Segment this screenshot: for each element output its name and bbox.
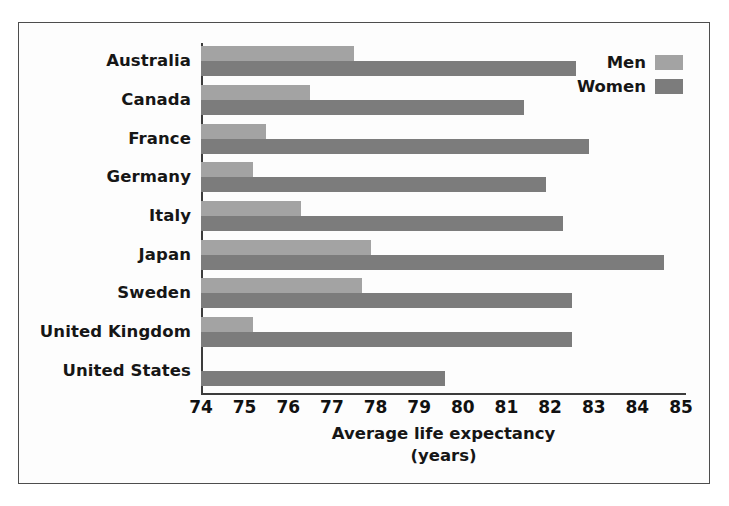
y-axis-tick-label: Canada bbox=[121, 90, 191, 109]
y-axis-tick-label: Italy bbox=[149, 206, 191, 225]
bar-men bbox=[201, 85, 310, 100]
bar-men bbox=[201, 278, 362, 293]
x-axis-tick-label: 76 bbox=[276, 397, 300, 417]
bar-women bbox=[201, 139, 589, 154]
bar-men bbox=[201, 317, 253, 332]
legend-swatch-men bbox=[655, 55, 683, 70]
x-axis-label-line1: Average life expectancy bbox=[332, 424, 556, 443]
bar-men bbox=[201, 240, 371, 255]
bar-men bbox=[201, 46, 354, 61]
bar-men bbox=[201, 162, 253, 177]
y-axis-tick-label: United States bbox=[62, 361, 191, 380]
x-axis-line bbox=[201, 393, 686, 395]
bar-men bbox=[201, 124, 266, 139]
y-axis-tick-label: Sweden bbox=[117, 283, 191, 302]
bar-women bbox=[201, 177, 546, 192]
chart-category-row: Germany bbox=[201, 159, 681, 198]
legend-item-women[interactable]: Women bbox=[577, 77, 683, 96]
x-axis-tick-label: 80 bbox=[451, 397, 475, 417]
y-axis-tick-label: France bbox=[128, 129, 191, 148]
chart-category-row: United Kingdom bbox=[201, 314, 681, 353]
y-axis-tick-label: Japan bbox=[139, 245, 191, 264]
y-axis-tick-label: United Kingdom bbox=[40, 322, 191, 341]
x-axis-tick-label: 79 bbox=[407, 397, 431, 417]
bar-women bbox=[201, 61, 576, 76]
bar-women bbox=[201, 100, 524, 115]
chart-legend: Men Women bbox=[577, 53, 683, 96]
bar-men bbox=[201, 201, 301, 216]
x-axis-tick-label: 75 bbox=[233, 397, 257, 417]
bar-women bbox=[201, 371, 445, 386]
x-axis-tick-label: 84 bbox=[626, 397, 650, 417]
x-axis-tick-label: 78 bbox=[364, 397, 388, 417]
chart-category-row: France bbox=[201, 120, 681, 159]
chart-category-row: Sweden bbox=[201, 275, 681, 314]
legend-label-men: Men bbox=[607, 53, 646, 72]
x-axis-tick-label: 74 bbox=[189, 397, 213, 417]
bar-women bbox=[201, 332, 572, 347]
x-axis-label: Average life expectancy (years) bbox=[201, 423, 686, 468]
x-axis-tick-label: 77 bbox=[320, 397, 344, 417]
chart-category-row: United States bbox=[201, 352, 681, 391]
chart-figure: AustraliaCanadaFranceGermanyItalyJapanSw… bbox=[18, 22, 710, 484]
x-axis-tick-label: 81 bbox=[495, 397, 519, 417]
x-axis-tick-label: 82 bbox=[538, 397, 562, 417]
x-axis-tick-label: 83 bbox=[582, 397, 606, 417]
y-axis-tick-label: Australia bbox=[106, 51, 191, 70]
bar-women bbox=[201, 255, 664, 270]
y-axis-tick-label: Germany bbox=[107, 167, 191, 186]
legend-swatch-women bbox=[655, 79, 683, 94]
legend-item-men[interactable]: Men bbox=[577, 53, 683, 72]
legend-label-women: Women bbox=[577, 77, 646, 96]
bar-women bbox=[201, 293, 572, 308]
x-axis-tick-label: 85 bbox=[669, 397, 693, 417]
chart-category-row: Italy bbox=[201, 198, 681, 237]
x-axis-label-line2: (years) bbox=[201, 445, 686, 467]
chart-category-row: Japan bbox=[201, 236, 681, 275]
bar-women bbox=[201, 216, 563, 231]
